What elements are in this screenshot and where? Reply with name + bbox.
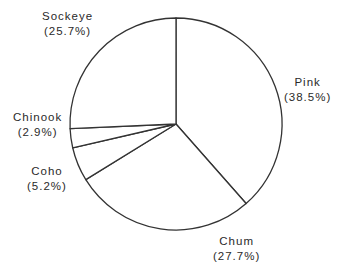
label-sockeye-name: Sockeye <box>42 9 93 24</box>
label-chinook: Chinook (2.9%) <box>13 110 62 140</box>
label-sockeye-pct: (25.7%) <box>42 24 93 39</box>
label-chinook-name: Chinook <box>13 110 62 125</box>
label-pink: Pink (38.5%) <box>284 75 331 105</box>
label-chum-pct: (27.7%) <box>213 249 260 264</box>
label-coho: Coho (5.2%) <box>27 164 67 194</box>
label-coho-name: Coho <box>27 164 67 179</box>
label-chinook-pct: (2.9%) <box>13 125 62 140</box>
label-chum: Chum (27.7%) <box>213 234 260 264</box>
label-coho-pct: (5.2%) <box>27 179 67 194</box>
label-pink-name: Pink <box>284 75 331 90</box>
label-chum-name: Chum <box>213 234 260 249</box>
label-sockeye: Sockeye (25.7%) <box>42 9 93 39</box>
label-pink-pct: (38.5%) <box>284 90 331 105</box>
